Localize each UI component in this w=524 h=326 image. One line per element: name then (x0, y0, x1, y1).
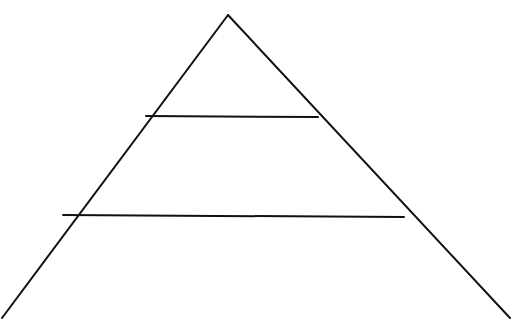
pyramid-right-edge (228, 15, 510, 318)
pyramid-figure (0, 0, 524, 326)
pyramid-left-edge (2, 15, 228, 318)
tier-divider-bottom (63, 215, 404, 217)
tier-divider-top (146, 116, 318, 117)
pyramid-diagram (0, 0, 524, 326)
